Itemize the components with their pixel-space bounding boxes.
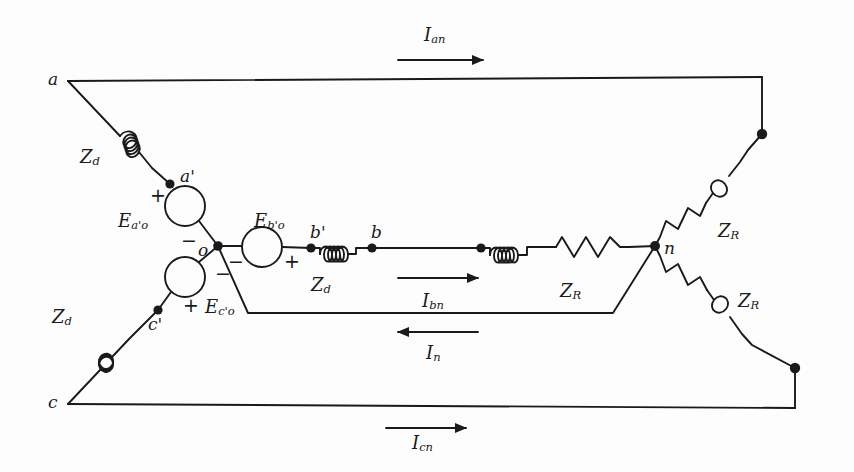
polarity-plus-source-c: + (183, 296, 199, 315)
node-dot-load-c (790, 363, 800, 373)
zr-b-sub: R (573, 288, 582, 302)
node-dot-mid-b (476, 243, 485, 252)
source-label-Eb-o: Eb'o (254, 212, 285, 232)
node-dot-load-a (757, 129, 767, 139)
impedance-label-zd-phase-a: Zd (80, 148, 100, 168)
zr-a-main: Z (718, 220, 731, 241)
src-b-main: E (254, 210, 267, 231)
node-label-a-prime: a' (180, 168, 195, 185)
zd-a-main: Z (80, 146, 93, 167)
zr-b-main: Z (560, 280, 573, 301)
zr-a-sub: R (731, 228, 740, 242)
polarity-minus-source-a: − (181, 231, 197, 250)
src-a-main: E (118, 210, 131, 231)
node-dot-o (213, 241, 223, 251)
polarity-plus-source-a: + (150, 186, 166, 205)
impedance-label-zr-phase-c: ZR (738, 292, 759, 312)
source-label-Ec-o: Ec'o (205, 298, 235, 318)
node-dot-b (367, 243, 376, 252)
wire-a-to-top-right (68, 77, 762, 81)
wire-zr-c-to-dot (730, 317, 795, 368)
node-dot-a-prime (165, 179, 174, 188)
cur-cn-sub: cn (419, 440, 433, 454)
inductor-zd-phase-b (320, 247, 348, 262)
source-circle-Eb-o (242, 227, 282, 267)
current-label-Icn: Icn (412, 434, 433, 454)
current-label-Ibn: Ibn (422, 292, 444, 312)
resistor-zr-phase-a (655, 203, 706, 246)
source-circle-Ec-o (165, 257, 205, 297)
wire-c-to-bottom-right (68, 404, 795, 408)
resistor-zr-phase-b (556, 237, 629, 257)
zd-c-sub: d (65, 314, 72, 328)
wire-zd-to-a-prime (139, 152, 170, 184)
zd-a-sub: d (93, 154, 100, 168)
inductor-zr-phase-b (490, 248, 518, 263)
wire-zr-a-to-dot (729, 134, 762, 176)
node-dot-n (650, 241, 660, 251)
node-label-c: c (48, 394, 58, 411)
impedance-label-zd-phase-b: Zd (311, 276, 331, 296)
inductor-zr-phase-a (706, 180, 727, 203)
zr-c-main: Z (738, 290, 751, 311)
impedance-label-zd-phase-c: Zd (52, 308, 72, 328)
wire-a-to-zd (68, 81, 120, 136)
node-label-b-prime: b' (310, 224, 326, 241)
node-label-n: n (664, 240, 675, 257)
node-dot-b-prime (306, 243, 315, 252)
polarity-minus-source-c: − (215, 264, 231, 283)
polarity-plus-source-b: + (284, 252, 300, 271)
zr-c-sub: R (751, 298, 760, 312)
zd-b-sub: d (324, 282, 331, 296)
current-label-Ian: Ian (424, 26, 445, 46)
wire-zr-b-ind-to-res (518, 247, 556, 255)
src-a-sub: a'o (131, 218, 148, 232)
src-c-main: E (205, 296, 218, 317)
cur-an-sub: an (431, 32, 445, 46)
cur-n-sub: n (433, 350, 440, 364)
node-label-b: b (371, 224, 382, 241)
resistor-zr-phase-c (655, 246, 707, 290)
node-label-o: o (198, 242, 208, 259)
source-circle-Ea-o (165, 186, 205, 226)
current-label-In: In (426, 344, 441, 364)
source-label-Ea-o: Ea'o (118, 212, 148, 232)
inductor-zd-phase-a (120, 132, 140, 157)
src-b-sub: b'o (267, 218, 284, 232)
cur-bn-sub: bn (429, 298, 444, 312)
impedance-label-zr-phase-b: ZR (560, 282, 581, 302)
wire-c-to-zd (68, 369, 101, 404)
inductor-zd-phase-c (99, 354, 113, 372)
impedance-label-zr-phase-a: ZR (718, 222, 739, 242)
src-c-sub: c'o (218, 304, 235, 318)
node-label-a: a (48, 71, 58, 88)
zd-b-main: Z (311, 274, 324, 295)
node-label-c-prime: c' (148, 316, 162, 333)
inductor-zr-phase-c (707, 290, 728, 313)
circuit-diagram-canvas: a a' o b' b c' c n Zd Zd Zd ZR ZR ZR Ea'… (0, 0, 854, 472)
zd-c-main: Z (52, 306, 65, 327)
